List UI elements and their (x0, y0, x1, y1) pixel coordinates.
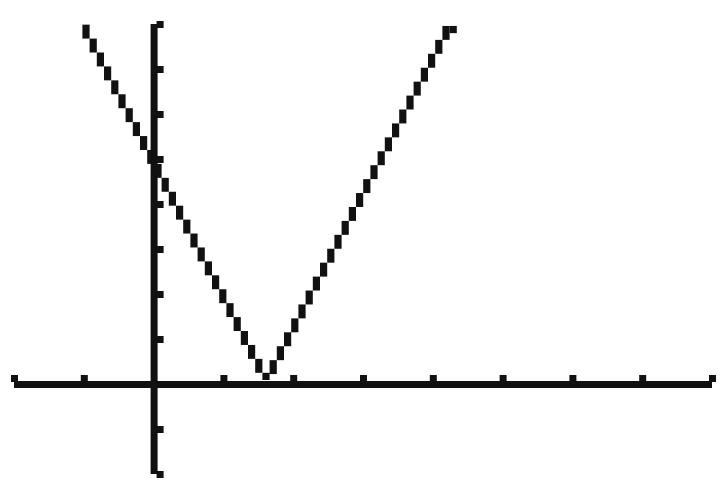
x-tick (290, 375, 297, 382)
y-tick (157, 426, 164, 433)
graph-pixel (205, 261, 212, 275)
graph-pixel (291, 318, 298, 332)
graph-pixel (82, 25, 89, 39)
x-tick (220, 375, 227, 382)
graph-pixel (255, 359, 262, 373)
graph-pixel (226, 303, 233, 317)
graph-pixel (140, 136, 147, 150)
graph-pixel (306, 291, 313, 305)
graph-screen (0, 0, 726, 490)
graph-pixel (363, 179, 370, 193)
x-tick (569, 375, 576, 382)
graph-pixel (370, 165, 377, 179)
x-tick (500, 375, 507, 382)
y-tick (157, 21, 164, 28)
graph-pixel (147, 150, 154, 164)
graph-pixel (190, 234, 197, 248)
x-axis (14, 381, 712, 388)
y-tick (157, 66, 164, 73)
x-tick (11, 375, 18, 382)
graph-pixel (414, 82, 421, 96)
graph-pixel (270, 360, 277, 374)
graph-pixel (234, 317, 241, 331)
graph-pixel (399, 109, 406, 123)
y-tick (157, 291, 164, 298)
graph-pixel (111, 80, 118, 94)
graph-pixel (162, 178, 169, 192)
graph-pixel (327, 249, 334, 263)
graph-pixel (169, 192, 176, 206)
graph-pixel (392, 123, 399, 137)
graph-pixel (378, 151, 385, 165)
graph-pixel (262, 373, 269, 380)
graph-pixel (183, 220, 190, 234)
function-plot (0, 0, 726, 490)
graph-pixel (450, 26, 457, 33)
graph-pixel (126, 108, 133, 122)
x-tick (709, 375, 716, 382)
y-tick (157, 471, 164, 478)
graph-pixel (97, 53, 104, 67)
graph-pixel (356, 193, 363, 207)
graph-pixel (241, 331, 248, 345)
graph-pixel (198, 247, 205, 261)
y-tick (157, 156, 164, 163)
y-tick (157, 246, 164, 253)
y-tick (157, 111, 164, 118)
graph-pixel (90, 39, 97, 53)
graph-pixel (284, 332, 291, 346)
graph-pixel (104, 66, 111, 80)
graph-pixel (342, 221, 349, 235)
graph-pixel (313, 277, 320, 291)
graph-pixel (118, 94, 125, 108)
x-tick (430, 375, 437, 382)
graph-pixel (334, 235, 341, 249)
graph-pixel (176, 206, 183, 220)
graph-pixel (421, 68, 428, 82)
graph-pixel (154, 164, 161, 178)
graph-pixel (442, 26, 449, 40)
graph-pixel (435, 40, 442, 54)
graph-pixel (349, 207, 356, 221)
graph-pixel (385, 137, 392, 151)
graph-pixel (428, 54, 435, 68)
x-tick (360, 375, 367, 382)
graph-pixel (219, 289, 226, 303)
graph-pixel (277, 346, 284, 360)
x-tick (81, 375, 88, 382)
y-axis (151, 24, 158, 474)
x-tick (639, 375, 646, 382)
y-tick (157, 336, 164, 343)
graph-pixel (320, 263, 327, 277)
graph-pixel (406, 96, 413, 110)
graph-pixel (133, 122, 140, 136)
y-tick (157, 201, 164, 208)
graph-pixel (298, 304, 305, 318)
graph-pixel (212, 275, 219, 289)
graph-pixel (248, 345, 255, 359)
